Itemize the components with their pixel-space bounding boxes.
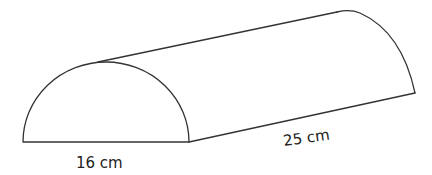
half-cylinder-diagram: 16 cm 25 cm bbox=[0, 0, 432, 175]
diameter-label: 16 cm bbox=[76, 154, 123, 172]
front-semicircle-face bbox=[23, 62, 189, 142]
top-edge bbox=[98, 12, 337, 62]
back-curved-edge bbox=[337, 11, 415, 93]
length-label: 25 cm bbox=[282, 126, 331, 150]
